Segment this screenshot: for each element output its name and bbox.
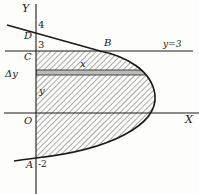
strip-height-label: y [38,85,45,96]
origin-label: O [24,115,32,126]
point-A-label: A [25,159,33,170]
tick-label-4: 4 [38,19,44,30]
point-B-label: B [103,37,111,48]
point-C-label: C [24,51,32,62]
diagram-canvas: Y X O 4 D 3 C B y=3 x Δy y A -2 [0,0,199,194]
tick-label-3: 3 [38,39,44,50]
strip-delta-label: Δy [4,68,18,79]
y-axis-label: Y [22,2,31,15]
line-label-y3: y=3 [162,39,182,49]
point-D-label: D [23,30,32,41]
tick-label-minus-2: -2 [38,159,47,169]
diagram-svg: Y X O 4 D 3 C B y=3 x Δy y A -2 [0,0,199,194]
x-axis-label: X [184,113,194,126]
strip-length-label: x [80,58,86,69]
line-DB [7,25,100,51]
